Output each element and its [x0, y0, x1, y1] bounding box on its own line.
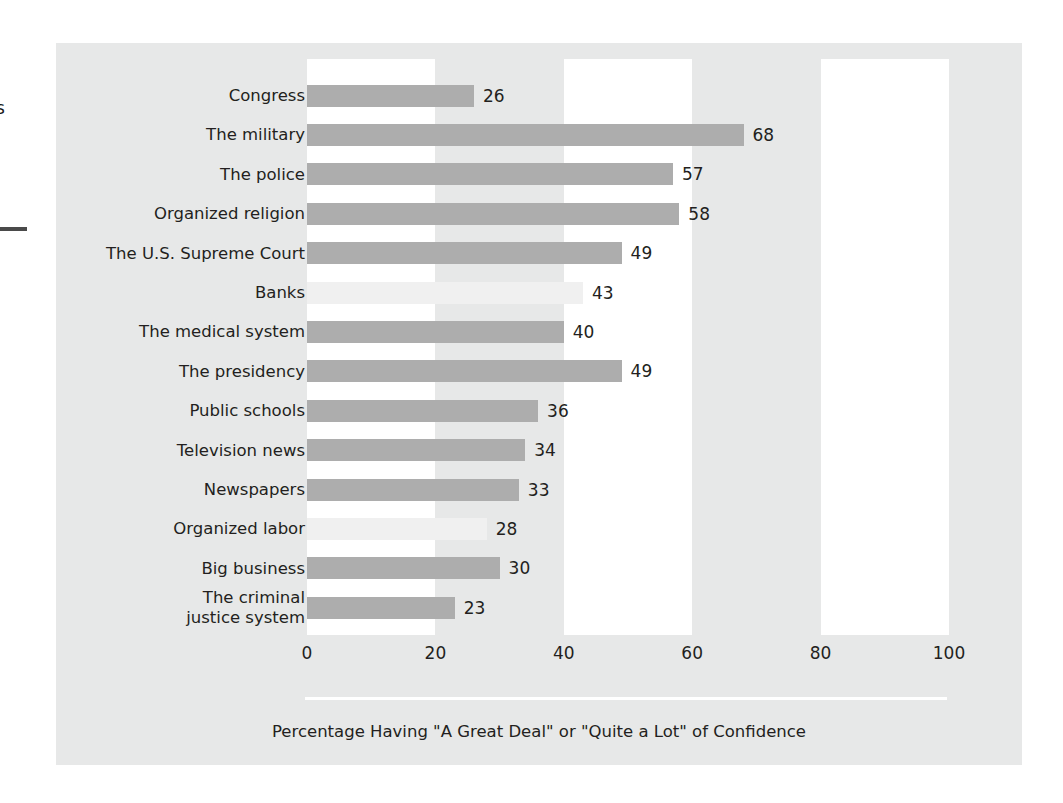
page-edge-glyph-artifact: s [0, 98, 5, 118]
x-axis-tick-label: 40 [553, 643, 575, 663]
axis-divider-rule [305, 697, 947, 700]
bar-value-label: 36 [547, 391, 569, 430]
category-label: The criminal justice system [65, 588, 305, 627]
category-label: Television news [65, 431, 305, 470]
category-label: The medical system [65, 312, 305, 351]
x-axis-tick-label: 0 [302, 643, 313, 663]
bar-value-label: 43 [592, 273, 614, 312]
category-label: The police [65, 155, 305, 194]
bar-value-label: 40 [573, 312, 595, 351]
x-axis-tick-label: 100 [933, 643, 965, 663]
chart-row: Big business30 [56, 549, 1022, 588]
x-axis-caption: Percentage Having "A Great Deal" or "Qui… [56, 722, 1022, 741]
bar [307, 400, 538, 422]
bar [307, 518, 487, 540]
bar-value-label: 58 [688, 194, 710, 233]
category-label: Newspapers [65, 470, 305, 509]
bar [307, 85, 474, 107]
chart-row: Newspapers33 [56, 470, 1022, 509]
bar [307, 597, 455, 619]
category-label: Organized labor [65, 509, 305, 548]
chart-row: Organized labor28 [56, 509, 1022, 548]
bar-value-label: 57 [682, 155, 704, 194]
chart-row: The military68 [56, 115, 1022, 154]
bar [307, 242, 622, 264]
bar-value-label: 26 [483, 76, 505, 115]
bar-value-label: 49 [631, 234, 653, 273]
category-label: The military [65, 115, 305, 154]
bar-value-label: 33 [528, 470, 550, 509]
chart-row: Congress26 [56, 76, 1022, 115]
chart-row: The presidency49 [56, 352, 1022, 391]
category-label: The presidency [65, 352, 305, 391]
bar-value-label: 34 [534, 431, 556, 470]
chart-row: The medical system40 [56, 312, 1022, 351]
chart-row: Public schools36 [56, 391, 1022, 430]
x-axis-tick-label: 60 [681, 643, 703, 663]
bar [307, 282, 583, 304]
bar [307, 321, 564, 343]
bar-value-label: 68 [753, 115, 775, 154]
category-label: The U.S. Supreme Court [65, 234, 305, 273]
category-label: Big business [65, 549, 305, 588]
chart-row: The U.S. Supreme Court49 [56, 234, 1022, 273]
chart-row: Banks43 [56, 273, 1022, 312]
bar [307, 557, 500, 579]
bar [307, 360, 622, 382]
category-label: Congress [65, 76, 305, 115]
chart-row: The police57 [56, 155, 1022, 194]
category-label: Public schools [65, 391, 305, 430]
bar [307, 203, 679, 225]
category-label: Banks [65, 273, 305, 312]
chart-row: The criminal justice system23 [56, 588, 1022, 627]
chart-row: Television news34 [56, 431, 1022, 470]
x-axis-tick-label: 20 [425, 643, 447, 663]
bar-value-label: 49 [631, 352, 653, 391]
bar-value-label: 23 [464, 588, 486, 627]
bar [307, 163, 673, 185]
page-edge-rule-artifact [0, 227, 27, 231]
figure-panel: Congress26The military68The police57Orga… [56, 43, 1022, 765]
category-label: Organized religion [65, 194, 305, 233]
x-axis-tick-label: 80 [810, 643, 832, 663]
bar [307, 124, 744, 146]
bar [307, 479, 519, 501]
bar-value-label: 28 [496, 509, 518, 548]
bar-value-label: 30 [509, 549, 531, 588]
chart-row: Organized religion58 [56, 194, 1022, 233]
bar [307, 439, 525, 461]
x-axis-ticks: 020406080100 [56, 643, 1022, 671]
